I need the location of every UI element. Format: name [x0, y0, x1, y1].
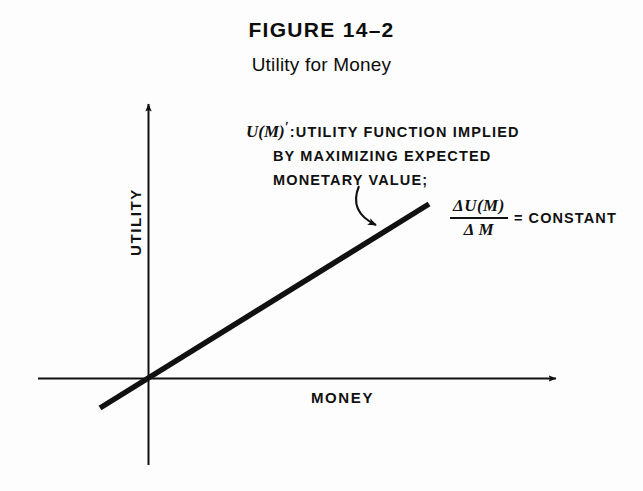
annotation-line-1: U(M)′:UTILITY FUNCTION IMPLIED	[246, 116, 546, 144]
x-axis-label: MONEY	[311, 389, 374, 406]
annotation-line-1-text: :UTILITY FUNCTION IMPLIED	[290, 124, 520, 140]
fraction-numerator: ΔU(M)	[450, 196, 508, 217]
figure-canvas: FIGURE 14–2 Utility for Money UTILITY MO…	[0, 0, 643, 491]
utility-function-symbol: U(M)	[246, 122, 285, 141]
formula-block: ΔU(M) Δ M = CONSTANT	[450, 196, 617, 240]
formula-equals-constant: = CONSTANT	[514, 210, 617, 226]
y-axis-label: UTILITY	[127, 188, 144, 256]
fraction: ΔU(M) Δ M	[450, 196, 508, 240]
plot-area	[0, 0, 643, 491]
annotation-line-3: MONETARY VALUE;	[273, 168, 546, 192]
fraction-denominator: Δ M	[461, 219, 498, 240]
annotation-text-block: U(M)′:UTILITY FUNCTION IMPLIED BY MAXIMI…	[246, 116, 546, 192]
annotation-line-2: BY MAXIMIZING EXPECTED	[273, 144, 546, 168]
